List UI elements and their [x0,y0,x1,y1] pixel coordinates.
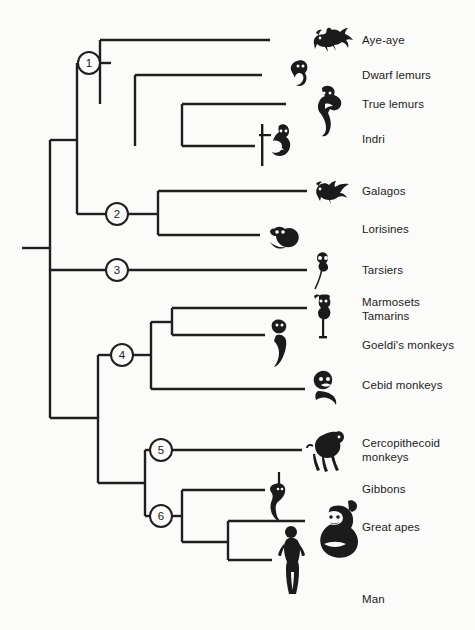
marmoset-icon [310,292,338,340]
man-icon [274,524,308,596]
node-marker-5: 5 [150,439,172,461]
goeldis-monkey-icon [266,316,294,368]
taxon-label-dwarf-lemurs: Dwarf lemurs [362,69,431,83]
branch-layer [22,40,307,560]
node-marker-4: 4 [111,344,133,366]
node-circle-layer: 123456 [78,52,172,527]
node-number-1: 1 [86,57,92,69]
taxon-label-cercopithecoid-monkeys: Cercopithecoid monkeys [362,437,440,464]
cercopithecoid-monkey-icon [306,428,348,472]
lorisine-icon [262,222,304,252]
taxon-label-tarsiers: Tarsiers [362,264,403,278]
indri-icon [256,122,296,168]
aye-aye-icon [308,24,354,54]
gibbon-icon [266,470,292,524]
node-marker-1: 1 [78,52,100,74]
great-ape-icon [310,498,362,560]
node-marker-3: 3 [106,259,128,281]
node-number-6: 6 [158,510,164,522]
taxon-label-man: Man [362,593,385,607]
node-number-4: 4 [119,349,126,361]
galago-icon [310,176,354,204]
taxon-label-lorisines: Lorisines [362,223,409,237]
taxon-label-cebid-monkeys: Cebid monkeys [362,379,443,393]
node-number-5: 5 [158,444,164,456]
taxon-label-galagos: Galagos [362,185,406,199]
taxon-label-indri: Indri [362,133,385,147]
taxon-label-marmosets-tamarins: Marmosets Tamarins [362,296,420,323]
taxon-label-gibbons: Gibbons [362,483,406,497]
taxon-label-true-lemurs: True lemurs [362,98,424,112]
taxon-label-goeldis-monkeys: Goeldi's monkeys [362,339,454,353]
taxon-label-aye-aye: Aye-aye [362,34,405,48]
node-marker-6: 6 [150,505,172,527]
primate-phylogeny-figure: 123456 [0,0,475,630]
true-lemur-icon [312,84,348,140]
node-number-3: 3 [114,264,120,276]
tarsier-icon [310,250,336,292]
node-number-2: 2 [114,208,120,220]
node-marker-2: 2 [106,203,128,225]
taxon-label-great-apes: Great apes [362,521,420,535]
dwarf-lemur-icon [288,58,314,88]
cebid-monkey-icon [308,368,342,412]
